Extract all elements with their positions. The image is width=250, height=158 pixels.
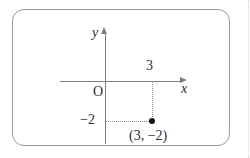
y-axis-arrow-icon xyxy=(101,27,107,34)
x-axis-line xyxy=(60,81,182,82)
horizontal-guide-line xyxy=(105,121,153,122)
figure-root: y x O 3 −2 (3, −2) xyxy=(0,0,250,158)
page-edge-rule xyxy=(248,0,249,158)
y-tick-label-minus-2: −2 xyxy=(80,113,95,127)
point-coordinate-label: (3, −2) xyxy=(129,129,167,143)
origin-label: O xyxy=(93,85,103,99)
x-axis-label: x xyxy=(181,82,187,96)
coordinate-plane: y x O 3 −2 (3, −2) xyxy=(12,9,230,146)
y-axis-label: y xyxy=(92,26,98,40)
plotted-point-marker xyxy=(149,118,155,124)
vertical-guide-line xyxy=(152,81,153,121)
x-tick-label-3: 3 xyxy=(146,59,153,73)
y-axis-line xyxy=(105,33,106,144)
